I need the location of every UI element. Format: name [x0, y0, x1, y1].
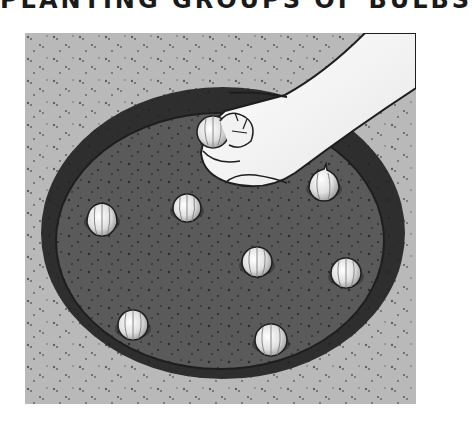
page-title: PLANTING GROUPS OF BULBS: [0, 0, 439, 14]
bulb-planting-scene: [25, 33, 416, 404]
planting-illustration: [25, 33, 416, 404]
